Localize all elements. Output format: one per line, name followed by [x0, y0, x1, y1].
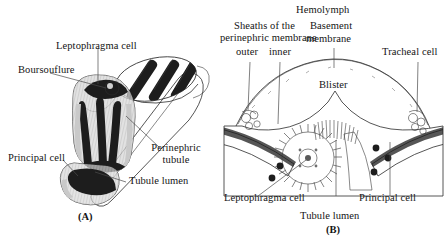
label-basement-membrane-line1: Basement: [310, 20, 352, 32]
label-sheath-outer: outer: [236, 46, 258, 58]
label-leptophragma-cell-a: Leptophragma cell: [56, 40, 137, 52]
label-sheaths-line2: perinephric membrane: [220, 32, 317, 44]
label-principal-cell-b: Principal cell: [359, 192, 416, 204]
label-tubule-lumen-b: Tubule lumen: [300, 210, 359, 222]
label-principal-cell-a: Principal cell: [8, 152, 65, 164]
label-boursouflure: Boursouflure: [18, 64, 75, 76]
panel-a: Leptophragma cell Boursouflure Principal…: [0, 0, 222, 236]
label-blister: Blister: [319, 79, 348, 91]
label-hemolymph: Hemolymph: [296, 4, 349, 16]
panel-a-tag: (A): [78, 211, 93, 222]
label-basement-membrane-line2: membrane: [306, 33, 351, 45]
panel-b: Hemolymph Sheaths of the perinephric mem…: [222, 0, 445, 236]
blister-dome: [234, 56, 430, 129]
panel-a-artwork: [0, 0, 222, 236]
label-tracheal-cell: Tracheal cell: [382, 46, 437, 58]
label-sheaths-line1: Sheaths of the: [234, 20, 295, 32]
label-tubule-lumen-a: Tubule lumen: [129, 175, 188, 187]
label-leptophragma-cell-b: Leptophragma cell: [224, 192, 305, 204]
sheath-left: [214, 128, 294, 176]
label-sheath-inner: inner: [269, 46, 291, 58]
panel-b-tag: (B): [326, 224, 340, 235]
figure-root: Leptophragma cell Boursouflure Principal…: [0, 0, 445, 236]
label-perinephric-tubule: Perinephric tubule: [140, 142, 212, 166]
